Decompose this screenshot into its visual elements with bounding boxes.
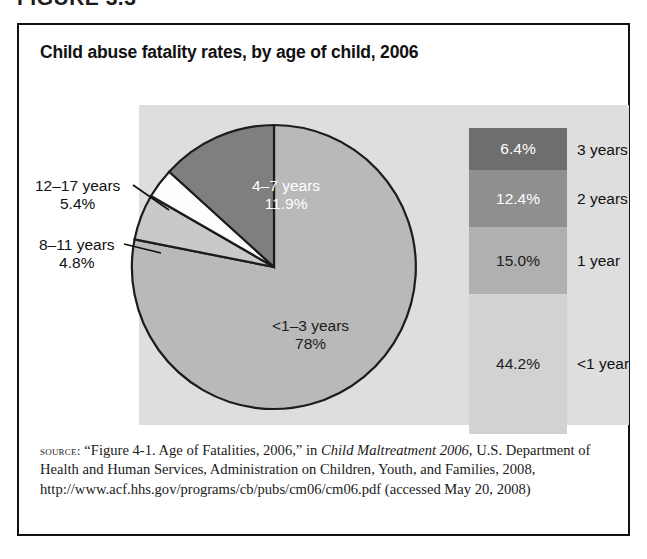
pie-label-4-7-years: 4–7 years 11.9% (252, 177, 320, 213)
pie-callout-12-17-years-value: 5.4% (60, 195, 95, 212)
source-note: source: “Figure 4-1. Age of Fatalities, … (40, 441, 614, 499)
breakout-label-3-years: 3 years (577, 141, 628, 159)
source-title-italic: Child Maltreatment 2006 (321, 442, 469, 458)
breakout-segment-1-year[interactable]: 15.0% (469, 227, 567, 294)
pie-label-4-7-years-name: 4–7 years (252, 177, 320, 194)
chart-title: Child abuse fatality rates, by age of ch… (40, 42, 418, 63)
pie-chart: 4–7 years 11.9% <1–3 years 78% (124, 117, 424, 417)
pie-label-under-1-3-years-name: <1–3 years (272, 317, 349, 334)
pie-callout-8-11-years-name: 8–11 years (39, 236, 115, 253)
pie-label-under-1-3-years: <1–3 years 78% (272, 317, 349, 353)
breakout-label-1-year: 1 year (577, 252, 620, 270)
breakout-label-under-1-year: <1 year (577, 355, 629, 373)
pie-callout-8-11-years: 8–11 years 4.8% (39, 236, 115, 272)
pie-svg (124, 117, 424, 417)
chart-panel: 4–7 years 11.9% <1–3 years 78% 12–17 yea… (21, 97, 627, 437)
pie-callout-12-17-years-name: 12–17 years (35, 177, 120, 194)
figure-frame: Child abuse fatality rates, by age of ch… (17, 23, 630, 536)
pie-callout-12-17-years: 12–17 years 5.4% (35, 177, 120, 213)
figure-caption: FIGURE 3.3 (17, 0, 136, 10)
source-label: source: (40, 443, 81, 458)
breakout-segment-2-years-value: 12.4% (496, 190, 540, 208)
breakout-segment-1-year-value: 15.0% (496, 252, 540, 270)
source-part1: “Figure 4-1. Age of Fatalities, 2006,” i… (81, 442, 321, 458)
pie-label-under-1-3-years-value: 78% (295, 335, 326, 352)
breakout-segment-under-1-year[interactable]: 44.2% (469, 294, 567, 434)
breakout-segment-2-years[interactable]: 12.4% (469, 170, 567, 227)
breakout-segment-3-years[interactable]: 6.4% (469, 128, 567, 170)
breakout-segment-3-years-value: 6.4% (500, 140, 535, 158)
breakout-stacked-bar: 6.4% 12.4% 15.0% 44.2% (469, 128, 567, 434)
pie-callout-8-11-years-value: 4.8% (59, 254, 94, 271)
breakout-label-2-years: 2 years (577, 190, 628, 208)
breakout-segment-under-1-year-value: 44.2% (496, 355, 540, 373)
pie-label-4-7-years-value: 11.9% (265, 195, 308, 212)
